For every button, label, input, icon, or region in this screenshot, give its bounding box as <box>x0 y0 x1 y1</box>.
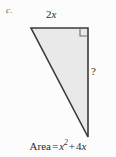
geometry-figure: c. 2x ? Area=x2+4x <box>0 0 116 157</box>
top-side-length-label: 2x <box>46 9 56 20</box>
triangle-diagram <box>0 0 116 157</box>
area-word: Area <box>30 140 51 152</box>
right-side-unknown-label: ? <box>91 66 96 77</box>
top-side-variable: x <box>52 8 57 20</box>
equals-sign: = <box>51 140 59 152</box>
triangle-shape <box>31 28 88 137</box>
area-equation-caption: Area=x2+4x <box>0 139 116 152</box>
area-term2-variable: x <box>82 140 87 152</box>
plus-sign: + <box>68 140 76 152</box>
